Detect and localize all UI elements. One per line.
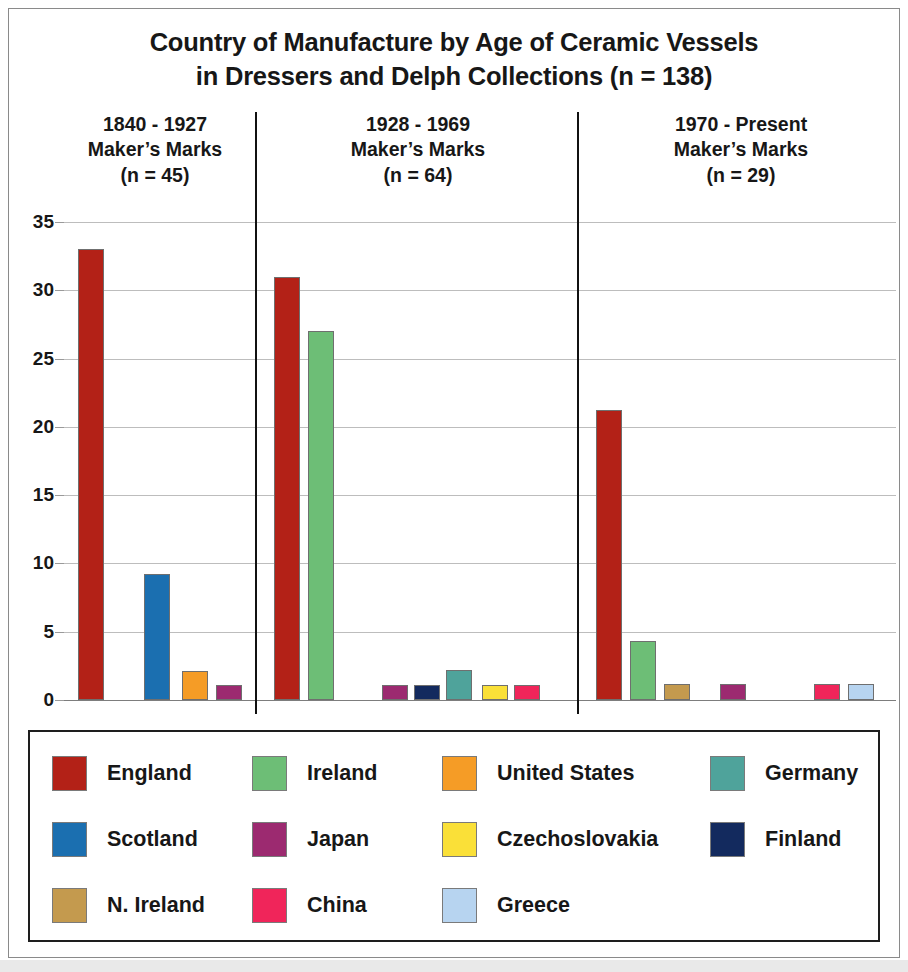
legend-item: Germany [710,756,858,791]
panel-header-1970-present: 1970 - Present Maker’s Marks (n = 29) [584,112,898,188]
legend-color-swatch [252,822,287,857]
legend-color-swatch [442,756,477,791]
bar [216,685,242,700]
panel-header-count: (n = 29) [584,163,898,188]
plot-region: 05101520253035 [8,210,900,715]
bar [446,670,472,700]
panel-header-subtitle: Maker’s Marks [584,137,898,162]
gridline [64,700,896,701]
legend-color-swatch [52,888,87,923]
legend-color-swatch [442,822,477,857]
legend-label: England [107,761,192,786]
bar [308,331,334,700]
panel-header-subtitle: Maker’s Marks [258,137,578,162]
legend-item: Greece [442,888,570,923]
legend-label: Germany [765,761,858,786]
bar [414,685,440,700]
y-axis-tick-label: 25 [33,348,54,370]
y-axis-tick-label: 20 [33,416,54,438]
bar [596,410,622,700]
legend-color-swatch [52,822,87,857]
legend-item: Czechoslovakia [442,822,658,857]
legend-item: Finland [710,822,841,857]
legend-label: Japan [307,827,369,852]
panel-header-period: 1928 - 1969 [258,112,578,137]
bar [514,685,540,700]
legend-color-swatch [52,756,87,791]
y-axis-tick-label: 0 [43,689,54,711]
legend-item: Japan [252,822,369,857]
y-tick-mark [55,632,64,633]
gridline [64,359,896,360]
legend-color-swatch [252,756,287,791]
panel-header-period: 1840 - 1927 [60,112,250,137]
y-axis-tick-label: 35 [33,211,54,233]
scan-edge-band [0,960,908,972]
y-tick-mark [55,290,64,291]
y-axis-tick-label: 15 [33,484,54,506]
panel-header-subtitle: Maker’s Marks [60,137,250,162]
legend-label: Scotland [107,827,198,852]
panel-header-period: 1970 - Present [584,112,898,137]
legend-item: England [52,756,192,791]
panel-divider [577,112,579,714]
bar [664,684,690,700]
y-axis-tick-label: 30 [33,279,54,301]
bar [482,685,508,700]
gridline [64,632,896,633]
legend-label: United States [497,761,634,786]
chart-title: Country of Manufacture by Age of Ceramic… [40,26,868,94]
bar [78,249,104,700]
legend-item: Ireland [252,756,378,791]
y-tick-mark [55,700,64,701]
legend-color-swatch [710,822,745,857]
bar [274,277,300,700]
chart-legend: EnglandIrelandUnited StatesGermanyScotla… [28,730,880,942]
y-tick-mark [55,359,64,360]
bar [182,671,208,700]
y-axis-tick-label: 5 [43,621,54,643]
legend-color-swatch [442,888,477,923]
legend-item: China [252,888,367,923]
plot-area [64,210,896,715]
panel-header-1840-1927: 1840 - 1927 Maker’s Marks (n = 45) [60,112,250,188]
gridline [64,290,896,291]
chart-title-line-2: in Dressers and Delph Collections (n = 1… [40,60,868,94]
legend-item: N. Ireland [52,888,205,923]
chart-title-line-1: Country of Manufacture by Age of Ceramic… [40,26,868,60]
panel-header-1928-1969: 1928 - 1969 Maker’s Marks (n = 64) [258,112,578,188]
panel-header-count: (n = 45) [60,163,250,188]
legend-label: Ireland [307,761,378,786]
legend-item: Scotland [52,822,198,857]
legend-color-swatch [710,756,745,791]
y-tick-mark [55,427,64,428]
bar [382,685,408,700]
gridline [64,222,896,223]
y-axis: 05101520253035 [8,210,60,715]
panel-header-count: (n = 64) [258,163,578,188]
y-tick-mark [55,495,64,496]
y-tick-mark [55,563,64,564]
bar [848,684,874,700]
legend-label: N. Ireland [107,893,205,918]
bar [630,641,656,700]
y-axis-tick-label: 10 [33,552,54,574]
bar [814,684,840,700]
legend-label: Finland [765,827,841,852]
gridline [64,495,896,496]
legend-label: Czechoslovakia [497,827,658,852]
gridline [64,563,896,564]
panel-divider [255,112,257,714]
legend-color-swatch [252,888,287,923]
bar [720,684,746,700]
chart-figure: Country of Manufacture by Age of Ceramic… [0,0,908,972]
gridline [64,427,896,428]
legend-label: China [307,893,367,918]
legend-label: Greece [497,893,570,918]
y-tick-mark [55,222,64,223]
bar [144,574,170,700]
panel-headers: 1840 - 1927 Maker’s Marks (n = 45) 1928 … [60,112,898,210]
legend-item: United States [442,756,634,791]
